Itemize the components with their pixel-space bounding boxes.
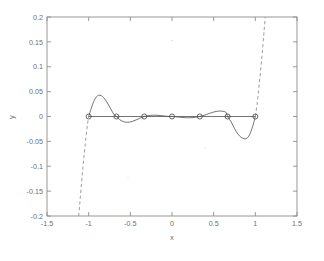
y-axis-label: y: [7, 115, 16, 119]
x-tick-label: 0: [170, 219, 174, 228]
y-tick-label: -0.05: [27, 137, 43, 146]
y-tick-label: -0.15: [27, 187, 43, 196]
x-tick-label: -1.5: [41, 219, 53, 228]
x-tick-label: 1.5: [292, 219, 302, 228]
y-tick-label: 0.05: [29, 87, 43, 96]
y-tick-label: 0.1: [33, 62, 43, 71]
y-tick-label: 0.2: [33, 13, 43, 22]
image-speck: [204, 147, 205, 148]
y-tick-label: 0.15: [29, 38, 43, 47]
x-tick-label: 1: [253, 219, 257, 228]
y-tick-label: 0: [39, 112, 43, 121]
divergence-left-path: [79, 117, 89, 217]
y-tick-labels: 0.2 0.15 0.1 0.05 0 -0.05 -0.1 -0.15 -0.…: [27, 13, 43, 221]
x-axis-label: x: [170, 233, 174, 242]
divergence-right-path: [255, 17, 265, 117]
y-tick-label: -0.1: [31, 162, 43, 171]
chart-plot: 0.2 0.15 0.1 0.05 0 -0.05 -0.1 -0.15 -0.…: [0, 0, 324, 261]
x-tick-label: -1: [85, 219, 91, 228]
image-speck: [171, 40, 172, 41]
x-tick-label: -0.5: [124, 219, 136, 228]
figure-canvas: 0.2 0.15 0.1 0.05 0 -0.05 -0.1 -0.15 -0.…: [0, 0, 324, 261]
x-tick-label: 0.5: [209, 219, 219, 228]
series-layer: [79, 17, 266, 216]
x-tick-labels: -1.5 -1 -0.5 0 0.5 1 1.5: [41, 219, 302, 228]
image-speck: [127, 177, 128, 178]
